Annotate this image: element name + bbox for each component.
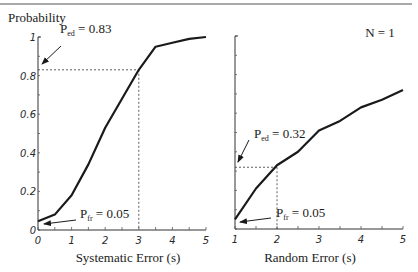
right-series-line	[235, 90, 403, 219]
left-pfr-symbol: P	[80, 206, 87, 221]
right-y-axis	[235, 36, 238, 229]
right-chart: 12345 Random Error (s) N = 1 Ped = 0.32 …	[232, 25, 406, 265]
y-axis-title: Probability	[8, 10, 66, 25]
left-x-tick-label: 3	[136, 235, 142, 246]
left-x-tick-label: 4	[169, 235, 175, 246]
right-ped-arrow	[238, 140, 249, 162]
left-x-tick-label: 0	[35, 235, 41, 246]
right-x-tick-label: 5	[400, 234, 406, 245]
figure: Probability 00.20.40.60.81 012345 System…	[0, 0, 418, 272]
right-x-tick-label: 3	[316, 234, 322, 245]
left-chart: 00.20.40.60.81 012345 Systematic Error (…	[20, 21, 209, 265]
left-ped-annotation: Ped = 0.83	[42, 21, 111, 64]
svg-text:Pfr = 0.05: Pfr = 0.05	[276, 205, 325, 222]
left-y-tick-label: 1	[30, 32, 36, 43]
svg-text:Ped = 0.83: Ped = 0.83	[60, 21, 111, 38]
right-x-tick-label: 1	[232, 234, 238, 245]
left-ped-symbol: P	[60, 21, 67, 36]
left-x-tick-label: 2	[102, 235, 108, 246]
svg-text:Ped = 0.32: Ped = 0.32	[254, 126, 305, 143]
right-ped-annotation: Ped = 0.32	[238, 126, 305, 162]
left-y-tick-label: 0.8	[20, 71, 36, 82]
right-x-tick-label: 2	[274, 234, 280, 245]
left-y-tick-label: 0.2	[20, 186, 36, 197]
left-ped-value: = 0.83	[75, 21, 112, 36]
left-x-axis-label: Systematic Error (s)	[76, 250, 181, 265]
left-y-tick-label: 0.4	[20, 148, 36, 159]
left-ped-subscript: ed	[67, 29, 75, 38]
right-ped-value: = 0.32	[269, 126, 306, 141]
right-ped-symbol: P	[254, 126, 261, 141]
right-x-tick-label: 4	[358, 234, 364, 245]
n-label: N = 1	[365, 25, 395, 40]
left-x-axis: 012345	[35, 227, 209, 246]
left-x-tick-label: 5	[203, 235, 209, 246]
left-y-axis: 00.20.40.60.81	[20, 32, 41, 236]
left-x-tick-label: 1	[68, 235, 74, 246]
right-pfr-value: = 0.05	[289, 205, 326, 220]
right-ped-subscript: ed	[261, 134, 269, 143]
left-y-tick-label: 0.6	[20, 109, 36, 120]
left-pfr-value: = 0.05	[93, 206, 130, 221]
left-ped-arrow	[42, 46, 61, 64]
right-pfr-annotation: Pfr = 0.05	[240, 205, 325, 222]
svg-text:Pfr = 0.05: Pfr = 0.05	[80, 206, 129, 223]
left-series-line	[38, 37, 206, 221]
right-x-axis-label: Random Error (s)	[264, 250, 356, 265]
right-pfr-symbol: P	[276, 205, 283, 220]
right-pfr-arrow	[240, 218, 271, 222]
right-x-axis: 12345	[232, 226, 406, 245]
left-pfr-arrow	[44, 220, 76, 224]
left-pfr-annotation: Pfr = 0.05	[44, 206, 129, 224]
